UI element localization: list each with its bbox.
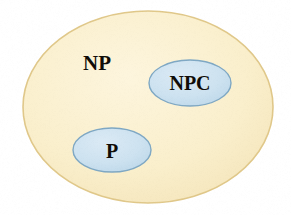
venn-diagram: NP NPC P: [0, 0, 291, 215]
np-label: NP: [83, 51, 111, 75]
set-p[interactable]: P: [73, 128, 151, 172]
np-ellipse-shape: [23, 11, 273, 203]
set-npc[interactable]: NPC: [149, 60, 231, 106]
npc-label: NPC: [169, 72, 210, 94]
diagram-canvas: NP NPC P: [0, 0, 291, 215]
set-np[interactable]: NP: [23, 11, 273, 203]
p-label: P: [106, 140, 118, 162]
